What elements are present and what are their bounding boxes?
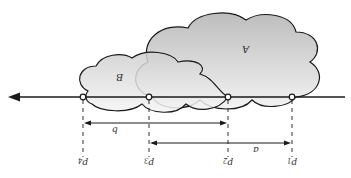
dimension-b-arrow-left-icon (84, 121, 91, 126)
dimension-b-label: b (112, 125, 118, 137)
dimension-a (150, 141, 291, 146)
dimension-b-arrow-right-icon (220, 121, 227, 126)
dimension-a-arrow-left-icon (150, 141, 157, 146)
point-p1-label: p1 (287, 156, 298, 170)
point-p4-label: p4 (78, 156, 89, 170)
point-p4 (80, 94, 86, 100)
point-p2-label: p2 (223, 156, 234, 170)
point-p1 (289, 94, 295, 100)
diagram-canvas: A B b a p4 p3 p2 p1 (0, 0, 351, 178)
dimension-b (84, 121, 227, 126)
dimension-a-label: a (253, 145, 259, 157)
region-b-label: B (116, 72, 123, 84)
region-a-label: A (242, 44, 250, 56)
point-p2 (225, 94, 231, 100)
dimension-a-arrow-right-icon (284, 141, 291, 146)
point-p3 (146, 94, 152, 100)
point-p3-label: p3 (144, 156, 155, 170)
axis-arrowhead-icon (8, 93, 20, 102)
